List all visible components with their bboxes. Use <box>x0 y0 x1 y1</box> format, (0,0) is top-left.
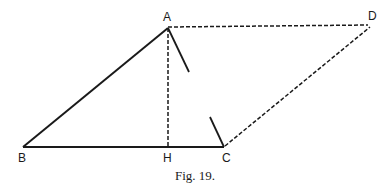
segment-ac-lower <box>210 117 224 147</box>
point-label-h: H <box>163 152 172 164</box>
point-label-c: C <box>222 152 231 164</box>
segment-cd-dashed <box>225 27 370 146</box>
segment-ad-dashed <box>168 25 368 27</box>
geometry-figure <box>0 0 388 194</box>
point-label-d: D <box>368 10 377 22</box>
point-label-a: A <box>163 11 171 23</box>
figure-caption: Fig. 19. <box>175 169 215 182</box>
segment-ab <box>23 28 168 147</box>
segment-ac-upper <box>168 28 189 72</box>
point-label-b: B <box>18 152 26 164</box>
